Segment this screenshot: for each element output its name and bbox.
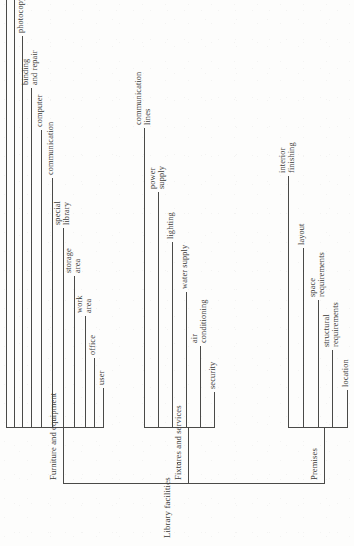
node-label-leaf-furniture-7: binding and repair	[22, 50, 39, 85]
leaf-stem-fixtures-1	[200, 346, 201, 428]
branch-stem-furniture	[63, 428, 64, 484]
leaf-stem-furniture-9	[14, 0, 15, 428]
leaf-stem-furniture-0	[103, 388, 104, 428]
tree-diagram: Library facilitiesPremiseslocationstruct…	[0, 0, 354, 546]
node-label-leaf-furniture-6: computer	[36, 95, 45, 127]
node-label-leaf-furniture-4: special library	[54, 201, 71, 225]
leaf-stem-premises-3	[303, 248, 304, 428]
branch-stem-premises	[324, 428, 325, 484]
node-label-leaf-fixtures-0: security	[209, 362, 218, 389]
leaf-stem-furniture-8	[22, 36, 23, 428]
node-label-leaf-furniture-3: storage area	[65, 248, 82, 273]
node-label-leaf-premises-4: interior finishing	[279, 142, 296, 173]
leaf-stem-premises-4	[288, 176, 289, 428]
node-label-branch-premises: Premises	[310, 448, 319, 480]
node-label-leaf-fixtures-5: communication lines	[135, 72, 152, 125]
node-label-leaf-furniture-0: user	[98, 371, 107, 385]
node-label-leaf-fixtures-1: air conditioning	[191, 299, 208, 343]
leaf-stem-fixtures-0	[214, 392, 215, 428]
leaf-stem-premises-2	[318, 300, 319, 428]
node-label-leaf-premises-0: location	[342, 359, 351, 387]
leaf-stem-premises-0	[347, 390, 348, 428]
leaf-stem-furniture-1	[94, 358, 95, 428]
leaf-stem-fixtures-2	[186, 292, 187, 428]
leaf-stem-furniture-6	[41, 130, 42, 428]
node-label-leaf-fixtures-3: lighting	[167, 212, 176, 239]
node-label-root: Library facilities	[163, 477, 172, 538]
branch-stem-fixtures	[188, 428, 189, 484]
node-label-leaf-premises-2: space requirements	[309, 252, 326, 297]
node-label-branch-furniture: Furniture and equipment	[49, 393, 58, 480]
node-label-leaf-fixtures-2: water supply	[181, 245, 190, 289]
leaf-stem-furniture-2	[85, 316, 86, 428]
node-label-leaf-fixtures-4: power supply	[149, 166, 166, 189]
node-label-leaf-furniture-8: photocopying	[17, 0, 26, 33]
leaf-stem-furniture-10	[6, 0, 7, 428]
node-label-leaf-furniture-2: work area	[76, 295, 93, 313]
node-label-leaf-premises-3: layout	[298, 223, 307, 245]
leaf-stem-fixtures-3	[172, 242, 173, 428]
figure-frame: Library facilitiesPremiseslocationstruct…	[0, 0, 354, 546]
node-label-leaf-furniture-5: communication	[47, 122, 56, 175]
leaf-stem-furniture-7	[31, 88, 32, 428]
leaf-stem-fixtures-4	[158, 192, 159, 428]
node-label-leaf-premises-1: structural requirements	[323, 302, 340, 347]
node-label-leaf-furniture-1: office	[89, 335, 98, 355]
leaf-stem-premises-1	[332, 350, 333, 428]
leaf-stem-fixtures-5	[144, 128, 145, 428]
root-spine	[63, 483, 324, 484]
node-label-branch-fixtures: Fixtures and services	[174, 405, 183, 480]
